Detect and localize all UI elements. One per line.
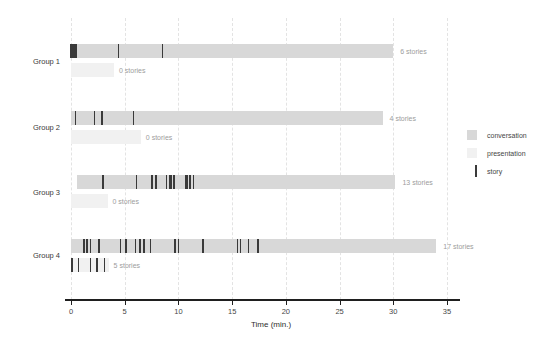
story-tick [170, 175, 172, 189]
x-axis-tick [447, 301, 448, 305]
conversation-bar [77, 175, 395, 189]
conversation-swatch-icon [467, 130, 477, 140]
x-tick-label: 30 [389, 307, 397, 316]
story-tick [118, 44, 120, 58]
gridline-35 [447, 18, 448, 300]
story-tick [166, 175, 168, 189]
story-tick [189, 175, 191, 189]
story-tick [202, 239, 204, 253]
story-tick [78, 258, 80, 272]
story-tick [178, 239, 180, 253]
conversation-stories-count: 4 stories [390, 114, 416, 121]
story-tick [94, 111, 96, 125]
story-tick [186, 175, 188, 189]
x-axis-title: Time (min.) [251, 320, 291, 329]
x-tick-label: 25 [335, 307, 343, 316]
x-axis-tick [178, 301, 179, 305]
legend-item-story: story [467, 165, 547, 177]
story-tick [125, 239, 127, 253]
group-label: Group 3 [33, 187, 60, 196]
story-tick [173, 175, 175, 189]
story-tick [237, 239, 239, 253]
story-tick [90, 239, 92, 253]
presentation-bar [71, 130, 141, 144]
presentation-swatch-icon [467, 148, 477, 158]
presentation-bar [71, 194, 108, 208]
story-tick [135, 239, 137, 253]
presentation-stories-count: 5 stories [114, 261, 140, 268]
legend-label: story [487, 168, 502, 175]
story-tick [101, 111, 103, 125]
gridline-15 [232, 18, 233, 300]
x-tick-label: 15 [228, 307, 236, 316]
conversation-stories-count: 17 stories [443, 242, 473, 249]
story-tick [120, 239, 122, 253]
story-tick [155, 175, 157, 189]
story-tick [75, 111, 77, 125]
story-tick [257, 239, 259, 253]
legend-label: presentation [487, 150, 526, 157]
group-label: Group 1 [33, 56, 60, 65]
conversation-bar [71, 44, 393, 58]
story-tick [152, 175, 154, 189]
gridline-25 [340, 18, 341, 300]
x-axis-tick [71, 301, 72, 305]
gridline-20 [286, 18, 287, 300]
story-tick [143, 239, 145, 253]
story-tick [102, 175, 104, 189]
gridline-5 [125, 18, 126, 300]
conversation-stories-count: 6 stories [400, 48, 426, 55]
x-tick-label: 35 [443, 307, 451, 316]
x-axis-tick [286, 301, 287, 305]
x-tick-label: 5 [123, 307, 127, 316]
story-tick [71, 258, 73, 272]
x-tick-label: 0 [69, 307, 73, 316]
story-tick [248, 239, 250, 253]
story-swatch-icon [475, 165, 477, 177]
group-label: Group 2 [33, 123, 60, 132]
x-axis-tick [125, 301, 126, 305]
story-tick [150, 239, 152, 253]
gridline-30 [393, 18, 394, 300]
gridline-10 [178, 18, 179, 300]
legend: conversationpresentationstory [467, 129, 547, 179]
x-axis-tick [393, 301, 394, 305]
story-tick [174, 239, 176, 253]
story-tick [136, 175, 138, 189]
x-tick-label: 20 [282, 307, 290, 316]
story-tick [162, 44, 164, 58]
story-tick [96, 258, 98, 272]
presentation-bar [71, 63, 114, 77]
x-axis-tick [232, 301, 233, 305]
conversation-bar [71, 111, 383, 125]
timeline-chart: 6 stories0 storiesGroup 14 stories0 stor… [0, 0, 556, 356]
presentation-stories-count: 0 stories [146, 133, 172, 140]
story-tick [104, 258, 106, 272]
presentation-stories-count: 0 stories [119, 67, 145, 74]
legend-item-conversation: conversation [467, 129, 547, 141]
story-tick [193, 175, 195, 189]
legend-label: conversation [487, 132, 527, 139]
x-tick-label: 10 [174, 307, 182, 316]
story-tick [83, 239, 85, 253]
group-label: Group 4 [33, 251, 60, 260]
story-tick [240, 239, 242, 253]
story-tick [90, 258, 92, 272]
story-tick [98, 239, 100, 253]
story-tick [139, 239, 141, 253]
story-tick [75, 44, 77, 58]
story-tick [86, 239, 88, 253]
presentation-stories-count: 0 stories [113, 198, 139, 205]
conversation-stories-count: 13 stories [402, 179, 432, 186]
story-tick [133, 111, 135, 125]
legend-item-presentation: presentation [467, 147, 547, 159]
x-axis-tick [340, 301, 341, 305]
